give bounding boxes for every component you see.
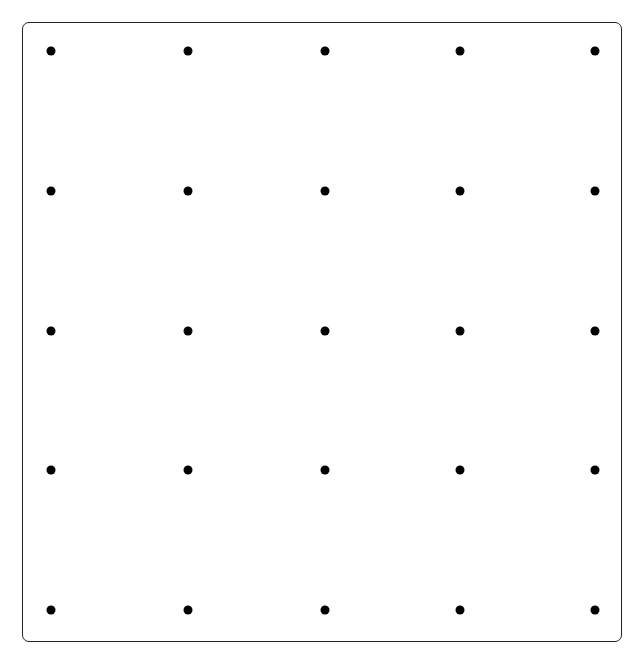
grid-dot (321, 327, 330, 336)
grid-dot (47, 466, 56, 475)
grid-dot (184, 187, 193, 196)
grid-dot (591, 327, 600, 336)
grid-dot (184, 47, 193, 56)
grid-dot (321, 606, 330, 615)
grid-dot (456, 466, 465, 475)
grid-dot (47, 327, 56, 336)
grid-dot (456, 187, 465, 196)
grid-dot (456, 47, 465, 56)
grid-dot (184, 327, 193, 336)
grid-dot (47, 187, 56, 196)
grid-dot (591, 466, 600, 475)
grid-dot (321, 187, 330, 196)
grid-dot (184, 466, 193, 475)
grid-dot (591, 187, 600, 196)
grid-dot (591, 47, 600, 56)
grid-dot (321, 466, 330, 475)
grid-dot (47, 47, 56, 56)
grid-dot (591, 606, 600, 615)
grid-dot (184, 606, 193, 615)
grid-dot (47, 606, 56, 615)
grid-dot (456, 327, 465, 336)
grid-dot (321, 47, 330, 56)
grid-dot (456, 606, 465, 615)
